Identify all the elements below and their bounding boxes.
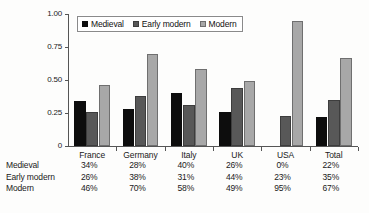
- table-cell: 34%: [67, 160, 111, 170]
- table-cell: 26%: [212, 160, 256, 170]
- bar: [74, 101, 86, 146]
- bar-groups: [68, 14, 358, 146]
- y-axis-tick-label: 0.75: [32, 42, 62, 51]
- bar: [123, 109, 135, 146]
- legend-item-modern: Modern: [200, 19, 237, 29]
- bar-chart-figure: 00.250.500.751.00 FranceGermanyItalyUKUS…: [0, 0, 369, 213]
- bar: [340, 58, 352, 146]
- table-cell: 31%: [164, 172, 208, 182]
- x-axis-category-label: Germany: [116, 150, 164, 160]
- bar: [219, 112, 231, 146]
- legend-swatch-modern: [200, 21, 206, 27]
- table-cell: 95%: [261, 183, 305, 193]
- table-cell: 28%: [116, 160, 160, 170]
- x-axis-category-label: UK: [213, 150, 261, 160]
- bar: [316, 117, 328, 146]
- table-cell: 38%: [116, 172, 160, 182]
- bar-group: [123, 14, 159, 146]
- y-axis-tick-label: 0.50: [32, 75, 62, 84]
- table-cell: 35%: [309, 172, 353, 182]
- bar-group: [171, 14, 207, 146]
- y-axis-tickmark: [65, 146, 68, 147]
- bar: [99, 85, 111, 146]
- table-cell: 49%: [212, 183, 256, 193]
- table-cell: 46%: [67, 183, 111, 193]
- table-cell: 40%: [164, 160, 208, 170]
- bar-group: [74, 14, 110, 146]
- legend-swatch-early-modern: [133, 21, 139, 27]
- x-axis-category-label: USA: [261, 150, 309, 160]
- x-axis-category-label: Italy: [165, 150, 213, 160]
- table-cell: 23%: [261, 172, 305, 182]
- bar: [244, 81, 256, 146]
- bar-group: [268, 14, 304, 146]
- y-axis-tick-label: 0: [32, 141, 62, 150]
- table-row-label: Medieval: [6, 160, 39, 170]
- bar: [328, 100, 340, 146]
- legend-label-modern: Modern: [209, 19, 237, 29]
- x-axis-category-label: France: [68, 150, 116, 160]
- bar: [183, 105, 195, 146]
- bar: [280, 116, 292, 146]
- chart-legend: Medieval Early modern Modern: [77, 16, 243, 32]
- table-cell: 67%: [309, 183, 353, 193]
- bar: [231, 88, 243, 146]
- bar: [292, 21, 304, 146]
- bar: [86, 112, 98, 146]
- table-row: Early modern26%38%31%44%23%35%: [0, 172, 369, 183]
- table-row: Medieval34%28%40%26%0%22%: [0, 160, 369, 171]
- bar-group: [219, 14, 255, 146]
- table-row-label: Early modern: [6, 172, 55, 182]
- table-cell: 26%: [67, 172, 111, 182]
- x-axis-category-label: Total: [310, 150, 358, 160]
- bar: [135, 96, 147, 146]
- table-row: Modern46%70%58%49%95%67%: [0, 183, 369, 194]
- data-table: Medieval34%28%40%26%0%22%Early modern26%…: [0, 160, 369, 210]
- table-cell: 44%: [212, 172, 256, 182]
- table-cell: 22%: [309, 160, 353, 170]
- bar: [195, 69, 207, 146]
- legend-label-medieval: Medieval: [91, 19, 124, 29]
- table-cell: 0%: [261, 160, 305, 170]
- legend-item-medieval: Medieval: [82, 19, 124, 29]
- table-row-label: Modern: [6, 183, 34, 193]
- plot-area: 00.250.500.751.00 FranceGermanyItalyUKUS…: [0, 0, 369, 160]
- bar-group: [316, 14, 352, 146]
- legend-swatch-medieval: [82, 21, 88, 27]
- legend-label-early-modern: Early modern: [142, 19, 191, 29]
- bar: [171, 93, 183, 146]
- legend-item-early-modern: Early modern: [133, 19, 191, 29]
- bar: [147, 54, 159, 146]
- x-axis-tickmark: [358, 147, 359, 151]
- y-axis-tick-label: 0.25: [32, 108, 62, 117]
- y-axis-tick-label: 1.00: [32, 9, 62, 18]
- table-cell: 70%: [116, 183, 160, 193]
- table-cell: 58%: [164, 183, 208, 193]
